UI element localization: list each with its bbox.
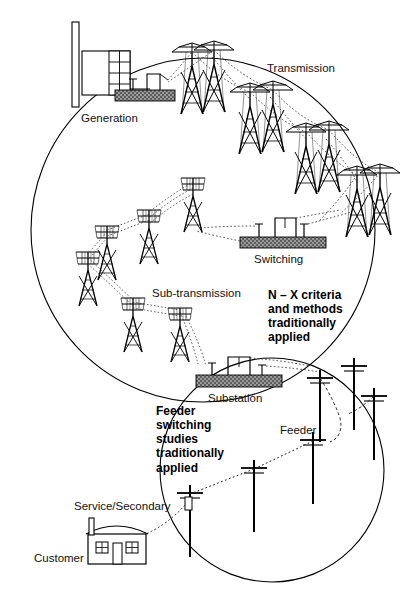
customer-house-icon: [86, 518, 148, 564]
label-generation: Generation: [81, 112, 138, 124]
diagram-canvas: Generation Transmission Switching Sub-tr…: [0, 0, 406, 592]
substation-icon: [196, 357, 282, 387]
label-transmission: Transmission: [267, 62, 335, 74]
label-customer: Customer: [34, 552, 84, 564]
label-switching: Switching: [254, 253, 303, 265]
feeder-conductor: [320, 378, 374, 442]
label-service-secondary: Service/Secondary: [74, 500, 171, 512]
label-substation: Substation: [208, 392, 262, 404]
subtransmission-tower-icon: [76, 178, 205, 362]
label-sub-transmission: Sub-transmission: [152, 287, 241, 299]
callout-feeder-studies: Feeder switching studies traditionally a…: [156, 404, 224, 475]
distribution-transformer-icon: [185, 497, 192, 510]
label-feeder: Feeder: [280, 424, 316, 436]
callout-bulk-criteria: N – X criteria and methods traditionally…: [268, 288, 343, 345]
switching-conductors: [196, 210, 352, 241]
